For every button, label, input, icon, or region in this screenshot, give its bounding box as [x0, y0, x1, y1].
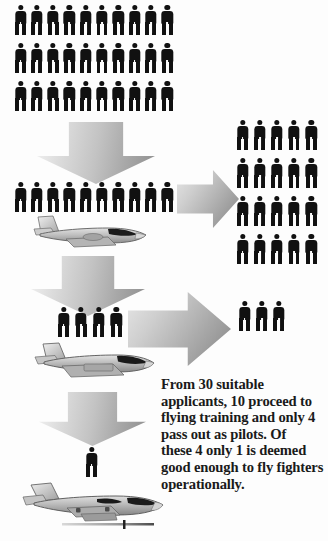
person-icon	[14, 43, 27, 73]
person-icon	[112, 182, 125, 212]
person-icon	[128, 43, 141, 73]
jet-trainer-aircraft-icon	[33, 214, 151, 254]
scale-bar	[62, 515, 154, 524]
caption-text-block: From 30 suitable applicants, 10 proceed …	[161, 376, 327, 492]
applicants-row-2	[14, 43, 174, 73]
person-icon	[288, 196, 301, 226]
person-icon	[144, 81, 157, 111]
person-icon	[161, 43, 174, 73]
caption-line: flying training and only 4	[161, 409, 327, 426]
caption-line: From 30 suitable	[161, 376, 327, 393]
person-icon	[253, 158, 266, 188]
applicants-row-3	[14, 81, 174, 111]
person-icon	[128, 182, 141, 212]
person-icon	[305, 196, 318, 226]
person-icon	[14, 5, 27, 35]
person-icon	[144, 182, 157, 212]
person-icon	[236, 158, 249, 188]
fail-flying-training-row	[238, 301, 285, 331]
person-icon	[270, 196, 283, 226]
person-icon	[85, 447, 98, 477]
person-icon	[253, 196, 266, 226]
person-icon	[63, 182, 76, 212]
person-icon	[30, 182, 43, 212]
person-icon	[270, 158, 283, 188]
person-icon	[238, 301, 251, 331]
flow-arrow-right-1	[177, 170, 239, 228]
flying-training-row	[14, 182, 174, 212]
rejected-row-1	[236, 120, 318, 150]
person-icon	[79, 182, 92, 212]
person-icon	[57, 307, 70, 337]
rejected-row-2	[236, 158, 318, 188]
person-icon	[95, 182, 108, 212]
person-icon	[253, 234, 266, 264]
person-icon	[236, 196, 249, 226]
person-icon	[95, 5, 108, 35]
person-icon	[30, 43, 43, 73]
person-icon	[79, 81, 92, 111]
person-icon	[288, 120, 301, 150]
rejected-row-4	[236, 234, 318, 264]
person-icon	[236, 234, 249, 264]
person-icon	[144, 5, 157, 35]
person-icon	[288, 158, 301, 188]
flow-arrow-down-1	[37, 122, 155, 184]
person-icon	[47, 182, 60, 212]
person-icon	[47, 43, 60, 73]
person-icon	[30, 5, 43, 35]
person-icon	[128, 5, 141, 35]
person-icon	[79, 5, 92, 35]
caption-line: applicants, 10 proceed to	[161, 393, 327, 410]
caption-line: operationally.	[161, 476, 327, 493]
person-icon	[255, 301, 268, 331]
person-icon	[112, 5, 125, 35]
rejected-row-3	[236, 196, 318, 226]
person-icon	[30, 81, 43, 111]
person-icon	[161, 182, 174, 212]
person-icon	[288, 234, 301, 264]
person-icon	[236, 120, 249, 150]
person-icon	[270, 234, 283, 264]
person-icon	[47, 81, 60, 111]
person-icon	[63, 81, 76, 111]
person-icon	[47, 5, 60, 35]
person-icon	[110, 307, 123, 337]
person-icon	[305, 158, 318, 188]
person-icon	[305, 120, 318, 150]
person-icon	[144, 43, 157, 73]
person-icon	[75, 307, 88, 337]
flow-arrow-down-3	[39, 392, 146, 446]
person-icon	[253, 120, 266, 150]
pictogram-infographic: From 30 suitable applicants, 10 proceed …	[0, 0, 328, 541]
person-icon	[112, 43, 125, 73]
person-icon	[128, 81, 141, 111]
person-icon	[161, 81, 174, 111]
person-icon	[95, 43, 108, 73]
person-icon	[112, 81, 125, 111]
person-icon	[305, 234, 318, 264]
person-icon	[63, 43, 76, 73]
person-icon	[95, 81, 108, 111]
applicants-row-1	[14, 5, 174, 35]
caption-line: good enough to fly fighters	[161, 459, 327, 476]
delta-wing-jet-aircraft-icon	[33, 340, 158, 384]
fighter-pilot-row	[85, 447, 98, 477]
qualified-pilots-row	[57, 307, 123, 337]
person-icon	[161, 5, 174, 35]
person-icon	[270, 120, 283, 150]
person-icon	[63, 5, 76, 35]
person-icon	[92, 307, 105, 337]
person-icon	[79, 43, 92, 73]
person-icon	[272, 301, 285, 331]
caption-line: these 4 only 1 is deemed	[161, 442, 327, 459]
caption-line: pass out as pilots. Of	[161, 426, 327, 443]
person-icon	[14, 81, 27, 111]
person-icon	[14, 182, 27, 212]
